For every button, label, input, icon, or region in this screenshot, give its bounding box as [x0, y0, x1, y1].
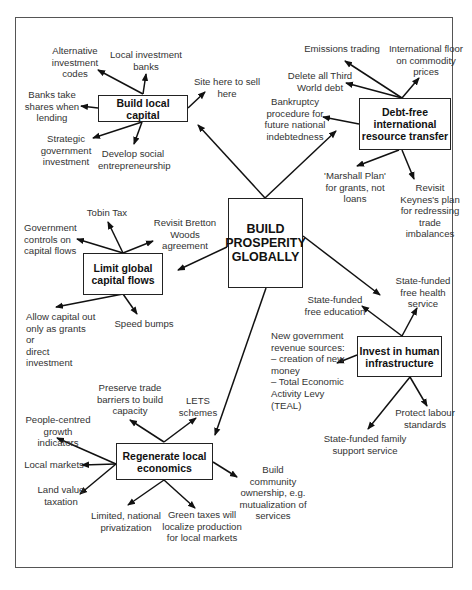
item-local-markets: Local markets	[24, 459, 84, 471]
item-new-revenue-sources: New government revenue sources: – creati…	[271, 330, 345, 411]
item-speed-bumps: Speed bumps	[114, 318, 174, 330]
item-family-support-service: State-funded family support service	[322, 433, 408, 456]
item-strategic-government-investment: Strategic government investment	[36, 133, 96, 168]
item-free-education: State-funded free education	[303, 294, 367, 317]
item-government-controls: Government controls on capital flows	[24, 222, 84, 257]
item-develop-social-entrepreneurship: Develop social entrepreneurship	[98, 148, 168, 171]
item-international-floor-commodity-prices: International floor on commodity prices	[385, 43, 467, 78]
item-preserve-trade-barriers: Preserve trade barriers to build capacit…	[94, 382, 166, 417]
item-revisit-keynes-plan: Revisit Keynes's plan for redressing tra…	[394, 182, 466, 240]
item-free-health-service: State-funded free health service	[393, 275, 453, 310]
node-build-local-capital: Build local capital	[98, 95, 188, 122]
item-emissions-trading: Emissions trading	[300, 43, 384, 55]
node-limit-global-capital-flows: Limit global capital flows	[83, 253, 163, 295]
node-label: Debt-free international resource transfe…	[362, 106, 448, 142]
item-alternative-investment-codes: Alternative investment codes	[44, 45, 106, 80]
item-site-here-to-sell-here: Site here to sell here	[192, 76, 262, 99]
node-debt-free-transfer: Debt-free international resource transfe…	[359, 98, 451, 150]
item-delete-third-world-debt: Delete all Third World debt	[284, 70, 356, 93]
node-label: Invest in human infrastructure	[360, 345, 440, 369]
item-lets-schemes: LETS schemes	[176, 395, 220, 418]
item-land-value-taxation: Land value taxation	[36, 484, 86, 507]
node-label: Regenerate local economics	[122, 450, 206, 474]
item-protect-labour-standards: Protect labour standards	[393, 407, 457, 430]
item-banks-take-shares: Banks take shares when lending	[22, 89, 82, 124]
node-regenerate-local-economics: Regenerate local economics	[116, 443, 213, 480]
node-label: Build local capital	[99, 97, 187, 121]
item-tobin-tax: Tobin Tax	[82, 207, 132, 219]
item-marshall-plan: 'Marshall Plan' for grants, not loans	[320, 170, 390, 205]
node-label: Limit global capital flows	[91, 262, 154, 286]
item-local-investment-banks: Local investment banks	[108, 49, 184, 72]
item-limited-national-privatization: Limited, national privatization	[88, 510, 164, 533]
item-allow-capital-out: Allow capital out only as grants or dire…	[26, 311, 96, 369]
node-invest-human-infrastructure: Invest in human infrastructure	[357, 336, 442, 377]
item-bankruptcy-procedure: Bankruptcy procedure for future national…	[262, 96, 328, 142]
item-build-community-ownership: Build community ownership, e.g. mutualiz…	[239, 464, 307, 522]
item-green-taxes: Green taxes will localize production for…	[162, 509, 242, 544]
item-people-centred-growth: People-centred growth indicators	[22, 414, 94, 449]
central-node-build-prosperity: BUILD PROSPERITY GLOBALLY	[228, 198, 303, 288]
item-revisit-bretton-woods: Revisit Bretton Woods agreement	[146, 217, 224, 252]
central-node-label: BUILD PROSPERITY GLOBALLY	[225, 222, 306, 264]
